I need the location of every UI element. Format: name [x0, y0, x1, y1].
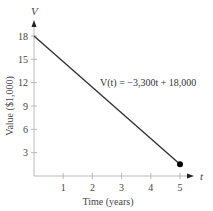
x-tick-label: 2 [90, 182, 95, 193]
y-tick-label: 3 [23, 147, 28, 158]
y-axis-name: V [31, 5, 39, 17]
x-axis-name: t [200, 170, 204, 182]
x-axis-title: Time (years) [82, 196, 133, 208]
chart: V t 369121518 12345 Value ($1,000) Time … [0, 0, 213, 211]
equation-label: V(t) = −3,300t + 18,000 [100, 77, 196, 89]
x-tick-label: 4 [148, 182, 153, 193]
x-tick-label: 1 [61, 182, 66, 193]
y-tick-label: 12 [18, 77, 28, 88]
x-axis-arrow-icon [187, 174, 194, 179]
y-tick-label: 9 [23, 101, 28, 112]
y-tick-label: 6 [23, 124, 28, 135]
value-line [34, 36, 180, 164]
x-tick-label: 3 [119, 182, 124, 193]
y-tick-label: 15 [18, 54, 28, 65]
y-axis-arrow-icon [32, 20, 37, 27]
x-tick-label: 5 [178, 182, 183, 193]
y-tick-label: 18 [18, 31, 28, 42]
y-axis-title: Value ($1,000) [4, 76, 16, 135]
endpoint-marker [177, 161, 183, 167]
